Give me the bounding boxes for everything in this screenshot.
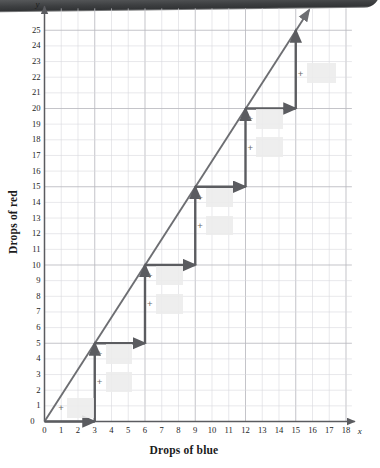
y-tick-label: 25	[23, 25, 41, 35]
blank-value-box	[106, 372, 133, 392]
plus-annotation: +	[197, 221, 203, 231]
x-tick-label: 10	[204, 425, 220, 435]
y-tick-label: 8	[23, 291, 41, 301]
y-tick-label: 4	[23, 353, 41, 363]
y-tick-label: 14	[23, 197, 41, 207]
x-tick-label: 3	[87, 425, 103, 435]
plus-annotation: +	[58, 403, 64, 413]
y-tick-label: 23	[23, 56, 41, 66]
blank-value-box	[206, 216, 233, 236]
y-tick-label: 19	[23, 119, 41, 129]
x-tick-label: 6	[137, 425, 153, 435]
x-tick-label: 13	[254, 425, 270, 435]
blank-value-box	[67, 398, 94, 418]
y-tick-label: 21	[23, 87, 41, 97]
x-tick-label: 16	[305, 425, 321, 435]
data-series-layer	[45, 10, 310, 422]
y-tick-label: 16	[23, 166, 41, 176]
blank-value-box	[256, 137, 283, 157]
y-tick-label: 24	[23, 40, 41, 50]
plus-annotation: +	[147, 299, 153, 309]
x-tick-label: 11	[221, 425, 237, 435]
y-tick-label: 12	[23, 228, 41, 238]
x-tick-label: 8	[171, 425, 187, 435]
blank-value-box	[106, 344, 133, 364]
y-tick-label: 1	[23, 400, 41, 410]
y-tick-label: 9	[23, 275, 41, 285]
y-tick-label: 17	[23, 150, 41, 160]
x-tick-label: 2	[70, 425, 86, 435]
plus-annotation: +	[197, 193, 203, 203]
plus-annotation: +	[147, 271, 153, 281]
x-tick-label: 15	[288, 425, 304, 435]
y-tick-label: 20	[23, 103, 41, 113]
y-tick-label: 18	[23, 134, 41, 144]
grid-layer	[45, 8, 352, 421]
y-tick-label: 6	[23, 322, 41, 332]
y-axis-variable-label: y	[36, 0, 40, 9]
blank-value-box	[256, 109, 283, 129]
y-tick-label: 5	[23, 338, 41, 348]
plus-annotation: +	[97, 377, 103, 387]
blank-value-box	[156, 266, 183, 286]
x-tick-label: 5	[120, 425, 136, 435]
y-tick-label: 0	[25, 416, 41, 426]
x-tick-label: 14	[271, 425, 287, 435]
blank-value-box	[206, 188, 233, 208]
y-tick-label: 22	[23, 72, 41, 82]
x-tick-label: 1	[53, 425, 69, 435]
y-tick-label: 15	[23, 181, 41, 191]
x-tick-label: 4	[104, 425, 120, 435]
x-tick-label: 12	[238, 425, 254, 435]
y-tick-label: 10	[23, 260, 41, 270]
x-axis-variable-label: x	[358, 426, 362, 436]
x-tick-label: 17	[321, 425, 337, 435]
x-tick-label: 9	[187, 425, 203, 435]
y-tick-label: 11	[23, 244, 41, 254]
x-tick-label: 7	[154, 425, 170, 435]
y-tick-label: 3	[23, 369, 41, 379]
y-tick-label: 13	[23, 213, 41, 223]
y-tick-label: 7	[23, 306, 41, 316]
plus-annotation: +	[97, 349, 103, 359]
plus-annotation: +	[248, 143, 254, 153]
x-tick-label: 0	[37, 425, 53, 435]
plus-annotation: +	[248, 114, 254, 124]
blank-value-box	[307, 63, 335, 83]
plus-annotation: +	[298, 69, 304, 79]
y-tick-label: 2	[23, 385, 41, 395]
x-tick-label: 18	[338, 425, 354, 435]
x-axis-title: Drops of blue	[0, 444, 368, 456]
blank-value-box	[156, 294, 183, 314]
y-axis-title: Drops of red	[7, 162, 19, 282]
